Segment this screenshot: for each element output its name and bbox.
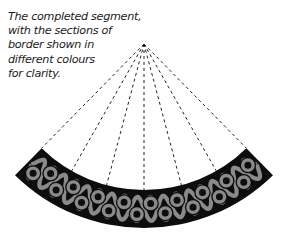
guide-line [144, 44, 216, 171]
segment-diagram [0, 0, 291, 245]
guide-line [107, 44, 144, 185]
guide-line [144, 44, 246, 148]
guide-line [144, 44, 181, 185]
guide-line [72, 44, 144, 171]
dashed-guide-lines [42, 44, 247, 190]
guide-line [42, 44, 144, 148]
